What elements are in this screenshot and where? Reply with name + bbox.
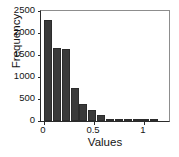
y-tick-mark — [38, 121, 42, 122]
y-tick-label: 500 — [2, 93, 35, 103]
y-tick-mark — [38, 77, 42, 78]
y-tick-label: 1000 — [2, 71, 35, 81]
x-tick-label: 0.5 — [86, 124, 99, 135]
y-tick-label: 2500 — [2, 5, 35, 15]
histogram-bar — [44, 20, 52, 121]
histogram-bar — [106, 119, 114, 121]
bar-series — [41, 11, 169, 121]
histogram-bar — [124, 119, 132, 121]
histogram-bar — [97, 115, 105, 121]
histogram-bar — [71, 88, 79, 121]
x-tick-label: 1 — [140, 124, 145, 135]
y-tick-mark — [38, 11, 42, 12]
histogram-bar — [88, 110, 96, 121]
y-tick-mark — [38, 99, 42, 100]
y-tick-label: 1500 — [2, 49, 35, 59]
histogram-bar — [79, 104, 87, 121]
histogram-bar — [141, 119, 149, 121]
x-axis-label: Values — [40, 136, 170, 149]
y-tick-mark — [38, 55, 42, 56]
y-tick-mark — [38, 33, 42, 34]
y-tick-label: 2000 — [2, 27, 35, 37]
histogram-figure: Frequency 05001000150020002500 00.51 Val… — [0, 0, 179, 157]
x-axis-tick-labels: 00.51 — [40, 124, 170, 136]
histogram-bar — [150, 119, 158, 121]
histogram-bar — [115, 119, 123, 121]
histogram-bar — [62, 49, 70, 121]
histogram-bar — [53, 48, 61, 121]
x-tick-label: 0 — [40, 124, 45, 135]
y-axis-tick-labels: 05001000150020002500 — [2, 0, 35, 157]
histogram-bar — [133, 119, 141, 121]
y-tick-label: 0 — [2, 115, 35, 125]
plot-area — [40, 10, 170, 122]
